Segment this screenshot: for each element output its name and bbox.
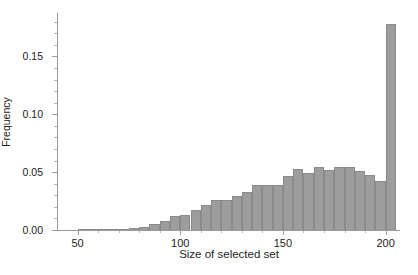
- x-axis-line: [57, 230, 400, 231]
- x-tick-minor: [221, 231, 222, 233]
- x-axis-title: Size of selected set: [179, 248, 279, 260]
- x-tick-minor: [324, 231, 325, 233]
- histogram-bar: [324, 170, 334, 230]
- x-tick-major: [386, 231, 387, 235]
- histogram-bar: [345, 167, 355, 230]
- x-tick-minor: [303, 231, 304, 233]
- histogram-bar: [88, 229, 98, 230]
- histogram-bar: [160, 221, 170, 230]
- x-tick-major: [78, 231, 79, 235]
- histogram-bar: [242, 192, 252, 230]
- histogram-bar: [375, 181, 385, 230]
- x-tick-label: 50: [71, 237, 83, 249]
- histogram-figure: 0.000.050.100.15 50100150200 Frequency S…: [0, 0, 418, 275]
- x-tick-minor: [98, 231, 99, 233]
- histogram-bar: [334, 167, 344, 230]
- x-tick-minor: [262, 231, 263, 233]
- x-tick-minor: [345, 231, 346, 233]
- x-tick-minor: [201, 231, 202, 233]
- y-tick-label: 0.05: [23, 166, 43, 178]
- x-tick-minor: [242, 231, 243, 233]
- histogram-bars: [57, 13, 400, 230]
- histogram-bar: [180, 215, 190, 230]
- histogram-bar: [314, 167, 324, 230]
- x-tick-minor: [160, 231, 161, 233]
- histogram-bar: [78, 229, 88, 230]
- x-tick-minor: [119, 231, 120, 233]
- histogram-bar: [273, 185, 283, 230]
- histogram-bar: [211, 200, 221, 230]
- histogram-bar: [283, 176, 293, 230]
- histogram-bar: [386, 24, 396, 230]
- y-tick-label: 0.10: [23, 108, 43, 120]
- y-axis-title: Frequency: [0, 97, 12, 147]
- x-tick-minor: [139, 231, 140, 233]
- histogram-bar: [129, 228, 139, 230]
- histogram-bar: [139, 227, 149, 230]
- histogram-bar: [119, 229, 129, 230]
- histogram-bar: [201, 205, 211, 230]
- histogram-bar: [303, 173, 313, 230]
- histogram-bar: [232, 196, 242, 230]
- x-tick-label: 200: [376, 237, 394, 249]
- histogram-bar: [252, 185, 262, 230]
- histogram-bar: [108, 229, 118, 230]
- histogram-bar: [191, 210, 201, 230]
- histogram-bar: [365, 175, 375, 230]
- histogram-bar: [355, 171, 365, 230]
- histogram-bar: [149, 224, 159, 230]
- x-tick-major: [180, 231, 181, 235]
- histogram-bar: [293, 169, 303, 230]
- histogram-bar: [98, 229, 108, 230]
- histogram-bar: [262, 185, 272, 230]
- x-tick-major: [283, 231, 284, 235]
- histogram-bar: [221, 200, 231, 230]
- y-tick-label: 0.00: [23, 224, 43, 236]
- histogram-bar: [170, 216, 180, 230]
- x-tick-minor: [365, 231, 366, 233]
- y-tick-label: 0.15: [23, 50, 43, 62]
